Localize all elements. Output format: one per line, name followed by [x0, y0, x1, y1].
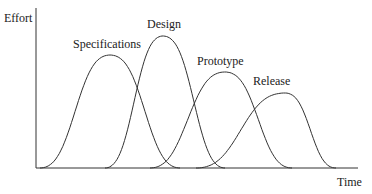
curve-release	[196, 93, 336, 168]
phase-label-design: Design	[147, 18, 181, 30]
phase-label-specifications: Specifications	[73, 38, 141, 50]
phase-label-prototype: Prototype	[197, 55, 244, 67]
effort-diagram	[0, 0, 372, 194]
phase-label-release: Release	[253, 75, 290, 87]
y-axis-label: Effort	[4, 12, 32, 24]
x-axis-label: Time	[337, 176, 362, 188]
curve-specifications	[40, 55, 180, 168]
